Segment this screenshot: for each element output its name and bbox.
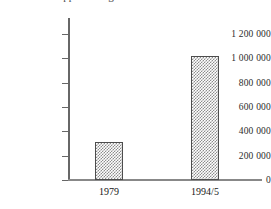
y-tick-mark xyxy=(62,131,68,132)
y-tick-mark xyxy=(62,83,68,84)
y-tick-label: 1 200 000 xyxy=(215,29,271,39)
x-tick-label-1994-5: 1994/5 xyxy=(175,186,235,197)
y-tick-mark xyxy=(62,156,68,157)
y-tick-label: 0 xyxy=(215,175,271,185)
y-tick-label: 400 000 xyxy=(215,126,271,136)
y-tick-mark xyxy=(62,58,68,59)
x-tick-label-1979: 1979 xyxy=(79,186,139,197)
y-tick-label: 1 000 000 xyxy=(215,53,271,63)
y-tick-label: 200 000 xyxy=(215,151,271,161)
y-tick-label: 800 000 xyxy=(215,78,271,88)
y-tick-mark xyxy=(62,107,68,108)
y-tick-mark xyxy=(62,180,68,181)
chart-figure: Appendix figure 1: 1979 and 1994/5 0 200… xyxy=(0,0,271,209)
y-axis-line xyxy=(68,18,70,181)
bar-1979 xyxy=(95,142,123,180)
plot-area: 0 200 000 400 000 600 000 800 000 1 000 … xyxy=(0,0,271,209)
y-tick-label: 600 000 xyxy=(215,102,271,112)
y-tick-mark xyxy=(62,34,68,35)
bar-1994-5 xyxy=(191,56,219,180)
